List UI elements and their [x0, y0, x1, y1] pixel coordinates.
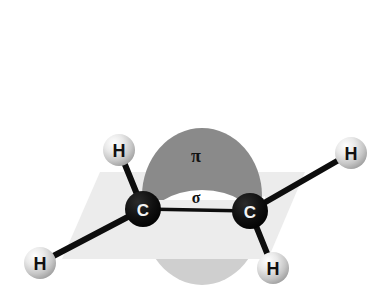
atom-c2-label: C: [244, 203, 256, 222]
atom-h3-label: H: [345, 144, 358, 164]
atom-h2: H: [24, 247, 56, 279]
atom-h1-label: H: [113, 141, 126, 161]
atom-h3: H: [335, 137, 367, 169]
atom-h1: H: [103, 134, 135, 166]
ethylene-orbital-diagram: H H H H C C π σ: [0, 0, 383, 299]
atom-h2-label: H: [34, 254, 47, 274]
atom-h4: H: [257, 252, 289, 284]
molecule-canvas: H H H H C C π σ: [0, 0, 383, 299]
atom-c1: C: [125, 191, 161, 227]
atom-c1-label: C: [137, 201, 149, 220]
atom-c2: C: [232, 193, 268, 229]
sigma-bond-label: σ: [192, 189, 201, 206]
atom-h4-label: H: [267, 259, 280, 279]
pi-bond-label: π: [191, 146, 201, 166]
